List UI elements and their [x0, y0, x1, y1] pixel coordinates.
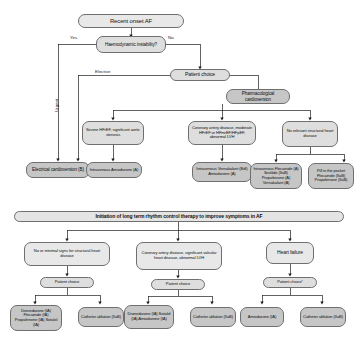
- node-treatment-iv-vernakalant: Intravenous Vernakalant (BdI) Amiodarone…: [192, 162, 252, 182]
- edge-label-elective: Elective: [95, 70, 110, 74]
- node-haemodynamic-instability: Haemodynamic instability?: [96, 36, 166, 53]
- node-option-dronedarone-flecainide: Dronedarone (IA) Flecainide (IA) Propafe…: [10, 305, 62, 331]
- node-pharmacological-cardioversion: Pharmacological cardioversion: [226, 89, 290, 104]
- node-treatment-electrical-cardioversion: Electrical cardioversion (B): [26, 162, 90, 178]
- node-condition-severe-hfref: Severe HFrEF, significant aortic stenosi…: [82, 121, 144, 145]
- node-bottom-condition-heart-failure: Heart failure: [266, 242, 314, 264]
- edge-label-no: No: [168, 36, 174, 40]
- node-treatment-iv-amiodarone: Intravenous Amiodarone (A): [86, 162, 142, 178]
- node-recent-onset-af: Recent onset AF: [78, 14, 184, 28]
- node-treatment-iv-flecainide: Intravenous Flecainide (A) Ibutilide (II…: [250, 163, 302, 189]
- node-option-catheter-ablation-1: Catheter ablation (IIaB): [78, 307, 124, 327]
- patient-choice-3-footnote-mark: *: [302, 281, 303, 284]
- node-condition-coronary-artery-disease: Coronary artery disease, moderate HFrEF …: [188, 121, 256, 145]
- node-bottom-patient-choice-1: Patient choice: [40, 277, 94, 288]
- node-bottom-condition-no-structural: No or minimal signs for structural heart…: [24, 242, 110, 266]
- patient-choice-3-label: Patient choice: [277, 280, 301, 285]
- node-banner-long-term-rhythm-control: Initiation of long term rhythm control t…: [14, 211, 344, 222]
- node-option-amiodarone: Amiodarone (IA): [240, 307, 284, 327]
- node-option-dronedarone-sotalol: Dronedarone (IA) Sotalol (IA) Amiodarone…: [124, 305, 174, 329]
- node-bottom-patient-choice-2: Patient choice: [151, 279, 205, 290]
- edge-label-yes: Yes: [70, 36, 77, 40]
- node-bottom-patient-choice-3: Patient choice*: [263, 277, 317, 288]
- node-condition-no-structural-disease: No relevant structural heart disease: [282, 121, 338, 147]
- node-option-catheter-ablation-2: Catheter ablation (IIaB): [190, 307, 236, 327]
- node-patient-choice-top: Patient choice: [170, 69, 230, 81]
- edge-label-urgent: Urgent: [55, 99, 59, 112]
- node-bottom-condition-coronary-valvular: Coronary artery disease, significant val…: [136, 242, 222, 270]
- node-treatment-pill-in-the-pocket: Pill in the pocket Flecainide (IIaB) Pro…: [308, 163, 354, 189]
- node-option-catheter-ablation-3: Catheter ablation (IIaB): [300, 307, 346, 327]
- flowchart-canvas: Recent onset AF Haemodynamic instability…: [0, 0, 357, 353]
